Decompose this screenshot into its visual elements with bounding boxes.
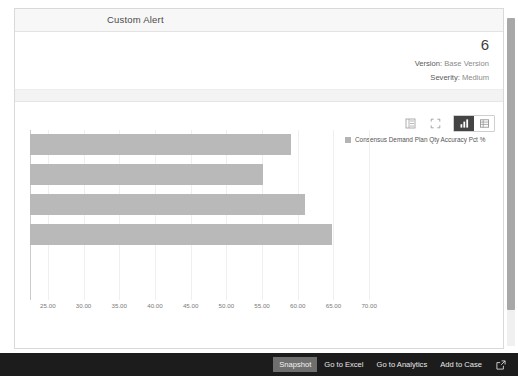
x-tick-label: 65.00	[326, 302, 341, 309]
severity-meta: Severity: Medium	[430, 73, 489, 82]
alert-count-value: 6	[481, 36, 489, 53]
x-tick-label: 60.00	[290, 302, 305, 309]
version-meta: Version: Base Version	[415, 59, 489, 68]
app-root: Custom Alert 6 Version: Base Version Sev…	[0, 0, 518, 376]
bar-chart-view-icon[interactable]	[454, 116, 474, 131]
chart-bars	[30, 130, 387, 300]
action-button-go-to-analytics[interactable]: Go to Analytics	[371, 357, 434, 372]
x-tick-label: 40.00	[147, 302, 162, 309]
x-tick-label: 50.00	[219, 302, 234, 309]
chart-x-axis-ticks: 25.0030.0035.0040.0045.0050.0055.0060.00…	[30, 302, 387, 316]
x-tick-label: 35.00	[112, 302, 127, 309]
page-title: Custom Alert	[107, 14, 164, 25]
table-view-icon[interactable]	[474, 116, 494, 131]
x-tick-label: 30.00	[76, 302, 91, 309]
chart-bar[interactable]	[30, 134, 291, 155]
vertical-scrollbar-thumb[interactable]	[507, 18, 515, 310]
list-view-icon[interactable]	[401, 116, 420, 131]
alert-summary-block: 6 Version: Base Version Severity: Medium	[15, 32, 503, 89]
action-button-add-to-case[interactable]: Add to Case	[434, 357, 488, 372]
custom-alert-card: Custom Alert 6 Version: Base Version Sev…	[14, 8, 504, 349]
x-tick-label: 55.00	[254, 302, 269, 309]
severity-value: Medium	[462, 73, 489, 82]
fullscreen-icon[interactable]	[426, 116, 445, 131]
bottom-action-bar: SnapshotGo to ExcelGo to AnalyticsAdd to…	[0, 353, 518, 376]
chart-plot-area: 25.0030.0035.0040.0045.0050.0055.0060.00…	[15, 130, 503, 318]
x-tick-label: 70.00	[361, 302, 376, 309]
x-tick-label: 25.00	[40, 302, 55, 309]
section-divider-strip	[15, 89, 503, 102]
card-titlebar: Custom Alert	[15, 9, 503, 32]
severity-label: Severity:	[430, 73, 460, 82]
action-button-snapshot[interactable]: Snapshot	[273, 357, 317, 372]
open-in-new-icon[interactable]	[492, 357, 510, 372]
vertical-scrollbar-track[interactable]	[507, 18, 515, 346]
action-buttons-container: SnapshotGo to ExcelGo to AnalyticsAdd to…	[272, 357, 488, 372]
version-value: Base Version	[444, 59, 489, 68]
chart-region: Consensus Demand Plan Qty Accuracy Pct %…	[15, 102, 503, 348]
version-label: Version:	[415, 59, 442, 68]
chart-bar[interactable]	[30, 224, 332, 245]
x-tick-label: 45.00	[183, 302, 198, 309]
action-button-go-to-excel[interactable]: Go to Excel	[318, 357, 369, 372]
chart-bar[interactable]	[30, 194, 305, 215]
chart-bar[interactable]	[30, 164, 263, 185]
